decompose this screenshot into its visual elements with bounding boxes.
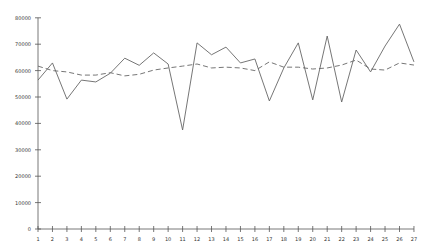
x-tick-label: 12	[194, 236, 200, 242]
x-tick-label: 25	[382, 236, 388, 242]
x-tick-label: 16	[252, 236, 258, 242]
line-chart: 0100002000030000400005000060000700008000…	[0, 0, 430, 245]
series-trend-line	[38, 60, 414, 76]
x-tick-label: 9	[152, 236, 155, 242]
x-tick-label: 23	[353, 236, 359, 242]
x-tick-label: 11	[179, 236, 185, 242]
x-tick-label: 7	[123, 236, 126, 242]
y-tick-label: 60000	[15, 68, 31, 74]
x-tick-label: 10	[165, 236, 171, 242]
y-tick-label: 0	[28, 226, 31, 232]
chart-series	[38, 24, 414, 130]
x-tick-label: 1	[36, 236, 39, 242]
x-tick-label: 13	[208, 236, 214, 242]
y-tick-label: 80000	[15, 15, 31, 21]
y-tick-label: 10000	[15, 200, 31, 206]
y-tick-label: 30000	[15, 147, 31, 153]
x-tick-label: 22	[338, 236, 344, 242]
x-tick-label: 20	[310, 236, 316, 242]
x-tick-label: 18	[281, 236, 287, 242]
x-tick-label: 24	[367, 236, 373, 242]
x-tick-label: 27	[411, 236, 417, 242]
y-tick-label: 20000	[15, 173, 31, 179]
x-tick-label: 8	[138, 236, 141, 242]
x-tick-label: 6	[109, 236, 112, 242]
x-tick-label: 14	[223, 236, 229, 242]
x-tick-label: 15	[237, 236, 243, 242]
x-tick-label: 4	[80, 236, 83, 242]
x-tick-label: 17	[266, 236, 272, 242]
x-tick-label: 2	[51, 236, 54, 242]
x-tick-label: 19	[295, 236, 301, 242]
x-tick-label: 21	[324, 236, 330, 242]
y-tick-label: 50000	[15, 94, 31, 100]
series-actual-line	[38, 24, 414, 130]
x-tick-label: 5	[94, 236, 97, 242]
y-tick-label: 40000	[15, 120, 31, 126]
chart-axes: 0100002000030000400005000060000700008000…	[15, 15, 417, 242]
x-tick-label: 3	[65, 236, 68, 242]
x-tick-label: 26	[396, 236, 402, 242]
y-tick-label: 70000	[15, 41, 31, 47]
